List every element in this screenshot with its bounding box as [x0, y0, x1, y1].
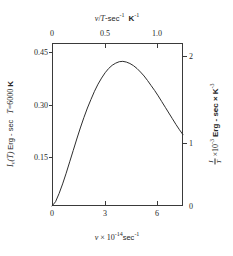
right-tick-label-1: 1 — [189, 139, 193, 148]
left-axis-quantity-symbol: I — [6, 164, 15, 167]
right-tick-mark-1 — [183, 143, 187, 144]
left-axis-title: Iv(T) Erg - sec T=6000 K — [6, 81, 19, 167]
top-tick-label-2: 1.0 — [152, 29, 162, 38]
left-axis-quantity-subscript: v — [10, 161, 16, 164]
top-axis-unit-sec: sec — [108, 14, 120, 23]
left-axis-condition-unit: K — [6, 81, 15, 87]
right-axis-fraction: IT — [208, 159, 223, 165]
right-axis-unit-kelvin: K — [211, 89, 220, 95]
left-axis-condition-symbol: T — [6, 109, 15, 113]
left-axis-condition-value: 6000 — [6, 89, 15, 105]
bottom-axis-unit: sec — [123, 233, 135, 242]
bottom-axis-unit-exponent: -1 — [134, 231, 139, 237]
bottom-tick-label-0: 0 — [50, 209, 54, 218]
bottom-axis-exponent: -14 — [115, 231, 123, 237]
bottom-tick-label-6: 6 — [155, 209, 159, 218]
planck-blackbody-chart: v/T-sec-1 K-1 0 0.5 1.0 Iv(T) Erg - sec … — [0, 0, 233, 256]
top-axis-unit-kelvin-exponent: -1 — [134, 12, 139, 18]
right-tick-label-0: 0 — [189, 202, 193, 211]
planck-curve-layer — [52, 43, 183, 206]
bottom-axis-title: v × 10-14sec-1 — [95, 233, 140, 243]
right-axis-scale-mantissa: ×10 — [211, 144, 220, 157]
top-axis-unit-sec-exponent: -1 — [119, 12, 124, 18]
right-axis-fraction-denominator: T — [216, 159, 223, 165]
right-axis-unit-kelvin-exponent: -3 — [209, 84, 215, 89]
right-tick-mark-2 — [183, 56, 187, 57]
right-axis-unit: Erg - sec × — [211, 96, 220, 137]
top-axis-title: v/T-sec-1 K-1 — [95, 14, 139, 24]
top-tick-label-0: 0 — [50, 29, 54, 38]
right-axis-title: IT ×10-3 Erg - sec × K-3 — [209, 84, 224, 165]
left-axis-condition-equals: = — [6, 105, 15, 110]
bottom-axis-mantissa: 10 — [107, 233, 115, 242]
right-tick-label-2: 2 — [189, 52, 193, 61]
left-tick-label-015: 0.15 — [20, 153, 48, 162]
left-axis-unit: Erg - sec — [6, 120, 15, 150]
left-axis-argument: (T) — [6, 152, 15, 162]
right-axis-scale-exponent: -3 — [209, 139, 215, 144]
bottom-axis-symbol: v — [95, 233, 99, 242]
bottom-axis-times: × — [100, 233, 105, 242]
left-tick-label-045: 0.45 — [20, 48, 48, 57]
bottom-tick-label-3: 3 — [103, 209, 107, 218]
top-tick-label-1: 0.5 — [100, 29, 110, 38]
left-tick-label-030: 0.30 — [20, 101, 48, 110]
planck-curve — [52, 61, 183, 206]
